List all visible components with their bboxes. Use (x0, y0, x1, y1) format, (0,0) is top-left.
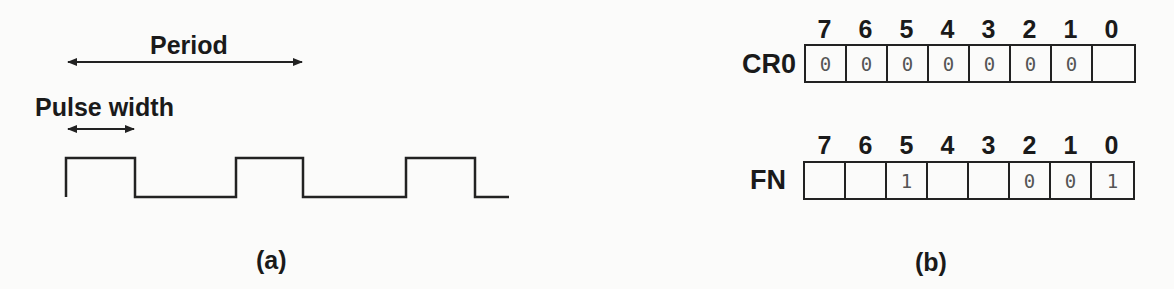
pulse-waveform-diagram (0, 0, 620, 289)
bit-cell: 0 (806, 46, 847, 81)
period-label: Period (150, 33, 228, 58)
fn-bit-indices: 7 6 5 4 3 2 1 0 (804, 133, 1132, 158)
bit-cell: 0 (1010, 163, 1051, 198)
bit-cell: 0 (1011, 46, 1052, 81)
fn-bit-cells: 1 0 0 1 (803, 161, 1135, 200)
bit-index: 7 (804, 17, 845, 42)
bit-index: 3 (968, 133, 1009, 158)
register-name-cr0: CR0 (716, 51, 796, 78)
register-name-fn: FN (706, 167, 786, 194)
caption-a: (a) (256, 248, 287, 273)
bit-cell: 0 (929, 46, 970, 81)
bit-index: 1 (1050, 17, 1091, 42)
square-wave (66, 158, 509, 197)
bit-index: 5 (886, 17, 927, 42)
bit-cell: 0 (847, 46, 888, 81)
bit-cell: 0 (970, 46, 1011, 81)
cr0-bit-cells: 0 0 0 0 0 0 0 (804, 44, 1136, 83)
bit-cell (969, 163, 1010, 198)
bit-index: 4 (927, 17, 968, 42)
cr0-bit-indices: 7 6 5 4 3 2 1 0 (804, 17, 1132, 42)
caption-b: (b) (915, 250, 947, 275)
bit-index: 1 (1050, 133, 1091, 158)
bit-index: 0 (1091, 133, 1132, 158)
bit-index: 2 (1009, 133, 1050, 158)
bit-index: 6 (845, 17, 886, 42)
bit-cell (1093, 46, 1134, 81)
bit-cell (928, 163, 969, 198)
bit-index: 5 (886, 133, 927, 158)
bit-cell: 1 (1092, 163, 1133, 198)
bit-index: 7 (804, 133, 845, 158)
bit-index: 0 (1091, 17, 1132, 42)
bit-index: 3 (968, 17, 1009, 42)
bit-cell: 0 (1051, 163, 1092, 198)
pulse-width-label: Pulse width (35, 95, 174, 120)
bit-cell (805, 163, 846, 198)
bit-index: 4 (927, 133, 968, 158)
bit-cell (846, 163, 887, 198)
bit-cell: 1 (887, 163, 928, 198)
bit-index: 2 (1009, 17, 1050, 42)
bit-cell: 0 (888, 46, 929, 81)
bit-index: 6 (845, 133, 886, 158)
bit-cell: 0 (1052, 46, 1093, 81)
